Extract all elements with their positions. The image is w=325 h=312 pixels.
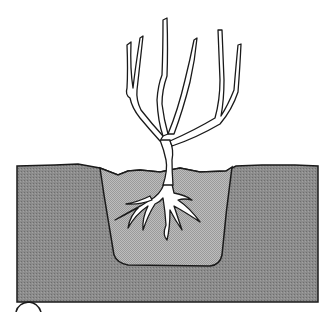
tree-branches: [126, 18, 241, 146]
step-number-circle: [16, 302, 41, 312]
planting-illustration: [0, 0, 325, 312]
